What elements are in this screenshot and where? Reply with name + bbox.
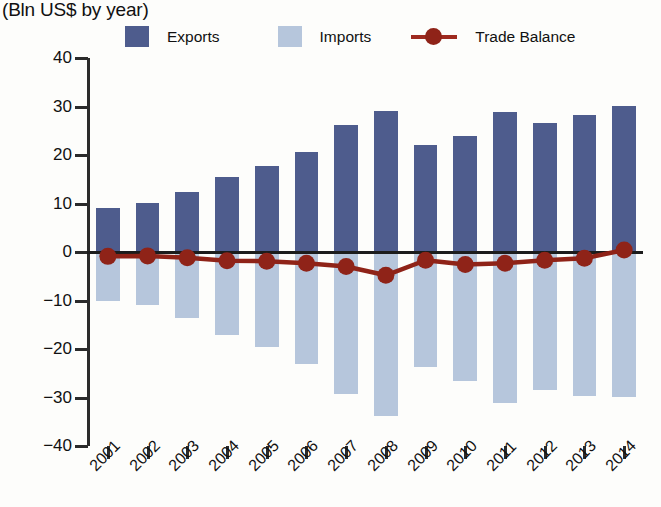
plot-area: 403020100−10−20−30−40 [88,58,644,446]
legend-item-imports[interactable]: Imports [278,26,372,47]
y-tick-label: −30 [43,388,72,408]
legend-item-exports[interactable]: Exports [125,26,220,47]
zero-baseline [87,251,643,254]
exports-bar[interactable] [453,136,477,252]
legend-label-exports: Exports [167,28,220,46]
exports-bar[interactable] [493,112,517,252]
legend-item-trade-balance[interactable]: Trade Balance [411,26,575,47]
imports-bar[interactable] [374,252,398,416]
y-tick [75,397,88,400]
imports-bar[interactable] [215,252,239,335]
exports-bar[interactable] [374,111,398,252]
y-tick [75,57,88,60]
exports-bar[interactable] [215,177,239,252]
imports-color-swatch [278,26,302,47]
trade-balance-line-marker-icon [411,26,457,47]
x-axis-labels: 2001200220032004200520062007200820092010… [88,446,644,507]
y-tick-label: 10 [53,194,72,214]
legend-label-imports: Imports [320,28,372,46]
chart-legend: Exports Imports Trade Balance [125,26,576,47]
y-tick [75,445,88,448]
imports-bar[interactable] [573,252,597,396]
imports-bar[interactable] [295,252,319,364]
imports-bar[interactable] [96,252,120,301]
exports-bar[interactable] [414,145,438,252]
exports-bar[interactable] [573,115,597,252]
legend-label-trade-balance: Trade Balance [475,28,575,46]
imports-bar[interactable] [414,252,438,367]
exports-bar[interactable] [612,106,636,252]
y-tick-label: 0 [63,242,72,262]
exports-bar[interactable] [334,125,358,252]
chart-subtitle: (Bln US$ by year) [2,0,149,21]
exports-bar[interactable] [175,192,199,252]
imports-bar[interactable] [493,252,517,403]
exports-bar[interactable] [295,152,319,252]
y-tick [75,300,88,303]
exports-bar[interactable] [96,208,120,252]
trade-balance-chart: (Bln US$ by year) Exports Imports Trade … [0,0,661,507]
y-tick-label: 30 [53,97,72,117]
imports-bar[interactable] [453,252,477,381]
imports-bar[interactable] [255,252,279,347]
exports-bar[interactable] [136,203,160,252]
imports-bar[interactable] [136,252,160,305]
y-tick [75,154,88,157]
exports-bar[interactable] [255,166,279,252]
y-tick [75,106,88,109]
y-tick-label: −40 [43,436,72,456]
y-tick-label: 40 [53,48,72,68]
imports-bar[interactable] [533,252,557,390]
y-tick [75,203,88,206]
imports-bar[interactable] [175,252,199,318]
imports-bar[interactable] [612,252,636,397]
exports-bar[interactable] [533,123,557,252]
y-tick-label: 20 [53,145,72,165]
imports-bar[interactable] [334,252,358,394]
y-tick-label: −20 [43,339,72,359]
exports-color-swatch [125,26,149,47]
y-tick [75,348,88,351]
y-tick-label: −10 [43,291,72,311]
